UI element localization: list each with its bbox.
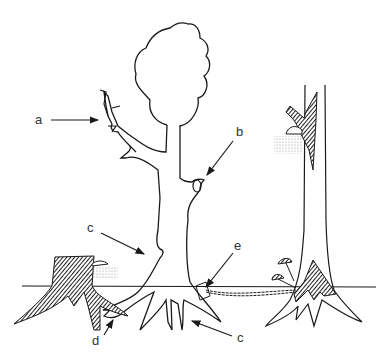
label-a: a	[35, 113, 42, 126]
right-bracket-fungus	[286, 127, 302, 134]
stump-spore-dust	[92, 266, 118, 278]
tree-infection-diagram	[0, 0, 389, 359]
arrow-c1	[101, 233, 144, 254]
label-c-lower: c	[237, 331, 244, 344]
tree-crown	[135, 23, 210, 126]
arrow-d	[104, 320, 113, 335]
right-spore-dust	[274, 136, 302, 154]
rhizomorph-strands	[206, 290, 296, 296]
label-b: b	[236, 125, 243, 138]
arrow-c2	[192, 321, 232, 336]
main-trunk	[103, 92, 221, 330]
branch-stub-wound	[193, 180, 201, 192]
stump-bracket-fungus	[92, 261, 108, 266]
label-c-upper: c	[87, 221, 94, 234]
arrow-b	[207, 141, 233, 175]
mushrooms	[272, 258, 296, 288]
arrow-e	[206, 253, 233, 287]
label-e: e	[234, 239, 241, 252]
label-d: d	[92, 334, 99, 347]
